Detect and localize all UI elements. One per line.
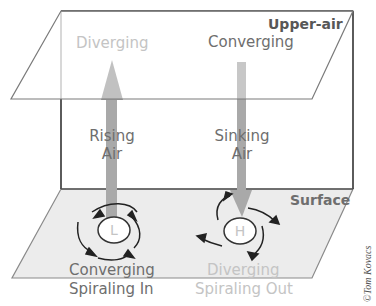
upper-diverging-label: Diverging xyxy=(76,35,148,51)
high-symbol: H xyxy=(232,223,248,239)
surface-label: Surface xyxy=(290,192,350,208)
upper-air-label: Upper-air xyxy=(268,16,343,32)
credit-text: ©Tom Kovacs xyxy=(362,246,373,302)
low-spiraling-label: Spiraling In xyxy=(69,281,154,297)
high-diverging-label: Diverging xyxy=(207,262,279,278)
rising-label-line2: Air xyxy=(89,146,135,162)
rising-label-line1: Rising xyxy=(89,128,135,144)
low-converging-label: Converging xyxy=(69,262,155,278)
sinking-label-line2: Air xyxy=(212,146,272,162)
diagram-canvas xyxy=(0,0,376,306)
upper-converging-label: Converging xyxy=(208,34,294,50)
high-spiraling-label: Spiraling Out xyxy=(195,281,293,297)
low-symbol: L xyxy=(106,222,122,238)
sinking-label-line1: Sinking xyxy=(212,128,272,144)
